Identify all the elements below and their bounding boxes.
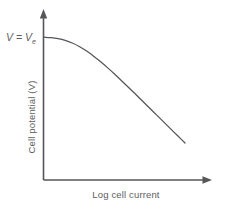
y-axis-label: Cell potential (V) [26,81,37,154]
x-axis-label: Log cell current [92,189,160,200]
polarization-curve [44,37,185,143]
x-axis-arrow-icon [203,176,213,183]
equilibrium-potential-label: V = Ve [6,31,36,45]
polarization-curve-figure: V = Ve Cell potential (V) Log cell curre… [0,0,227,210]
y-axis-arrow-icon [40,9,47,19]
plot-area: V = Ve Cell potential (V) Log cell curre… [0,0,227,210]
eq-label-equals: = [13,31,25,43]
eq-label-subscript: e [32,38,36,45]
